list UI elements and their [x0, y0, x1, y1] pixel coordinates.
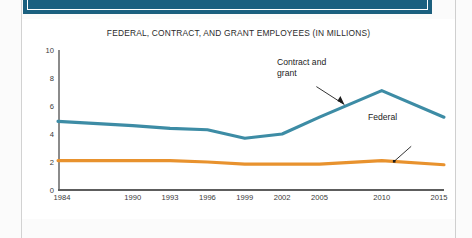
leader-line-federal	[394, 146, 411, 161]
page-right-rule	[455, 0, 456, 238]
chart-title: FEDERAL, CONTRACT, AND GRANT EMPLOYEES (…	[22, 28, 455, 38]
annotation-contract-line2: grant	[277, 68, 326, 79]
y-tick-10: 10	[46, 46, 54, 55]
chart-figure: FEDERAL, CONTRACT, AND GRANT EMPLOYEES (…	[22, 19, 455, 219]
top-banner	[23, 0, 432, 14]
y-tick-8: 8	[50, 74, 54, 83]
leader-marker-federal	[393, 160, 396, 163]
y-tick-6: 6	[50, 102, 54, 111]
y-tick-4: 4	[50, 130, 54, 139]
top-banner-inner-border	[27, 0, 428, 10]
annotation-contract-line1: Contract and	[277, 57, 326, 68]
y-tick-2: 2	[50, 158, 54, 167]
leader-arrowhead-contract	[337, 96, 344, 105]
plot-area: 0246810 19841990199319961999200220052010…	[58, 50, 444, 209]
series-lines	[58, 50, 444, 209]
annotation-federal-line1: Federal	[368, 112, 397, 123]
annotation-contract-and-grant: Contract and grant	[277, 57, 326, 78]
series-line-federal	[58, 161, 444, 165]
page-sheet: FEDERAL, CONTRACT, AND GRANT EMPLOYEES (…	[0, 0, 472, 238]
annotation-federal: Federal	[368, 112, 397, 123]
